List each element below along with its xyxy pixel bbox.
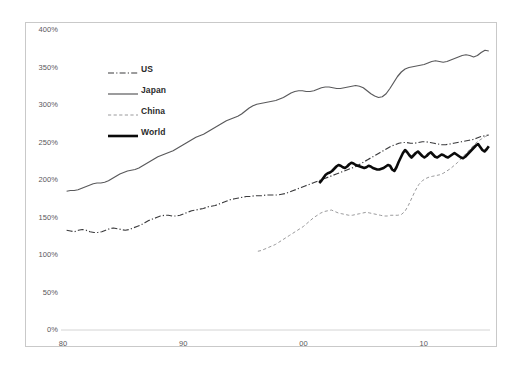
legend-item-world[interactable]: World: [108, 121, 204, 142]
legend-item-us[interactable]: US: [108, 58, 204, 79]
legend-swatch-icon: [108, 64, 138, 74]
chart-plot-area: [0, 0, 516, 372]
legend-item-label: Japan: [141, 85, 166, 95]
legend-item-label: China: [141, 106, 165, 116]
series-line-world: [319, 144, 489, 183]
legend-item-label: World: [141, 127, 165, 137]
legend-item-japan[interactable]: Japan: [108, 79, 204, 100]
legend-swatch-icon: [108, 106, 138, 116]
legend-item-label: US: [141, 64, 153, 74]
legend-swatch-icon: [108, 127, 138, 137]
chart-legend: USJapanChinaWorld: [108, 58, 204, 142]
legend-swatch-icon: [108, 85, 138, 95]
series-line-us: [67, 135, 489, 233]
legend-item-china[interactable]: China: [108, 100, 204, 121]
